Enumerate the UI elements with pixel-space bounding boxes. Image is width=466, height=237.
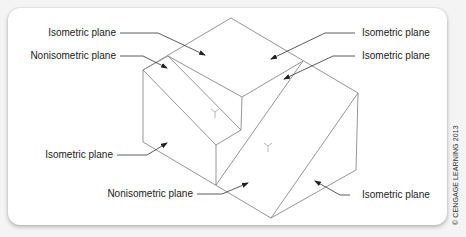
- label-left-isometric: Isometric plane: [45, 149, 113, 160]
- leader-left-isometric: [117, 143, 167, 155]
- label-top-left-nonisometric: Nonisometric plane: [30, 50, 116, 61]
- label-top-left-isometric: Isometric plane: [48, 27, 116, 38]
- label-right-isometric: Isometric plane: [362, 189, 430, 200]
- isometric-axis-mark: [264, 143, 272, 152]
- leader-top-left-nonisometric: [120, 56, 167, 68]
- leader-top-right-isometric-2: [284, 56, 355, 79]
- label-top-right-isometric-1: Isometric plane: [362, 27, 430, 38]
- isometric-axis-mark: [211, 109, 219, 118]
- leader-top-left-isometric: [120, 33, 205, 55]
- leader-top-right-isometric-1: [271, 33, 355, 59]
- leader-lines: [117, 33, 355, 195]
- label-top-right-isometric-2: Isometric plane: [362, 50, 430, 61]
- label-bottom-nonisometric: Nonisometric plane: [107, 188, 193, 199]
- copyright-credit: © CENGAGE LEARNING 2013: [452, 125, 459, 225]
- isometric-block-drawing: Isometric plane Nonisometric plane Isome…: [0, 0, 466, 237]
- leader-bottom-nonisometric: [197, 183, 248, 194]
